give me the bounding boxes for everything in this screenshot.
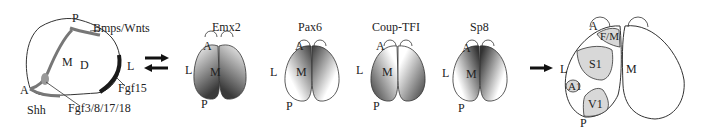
map-label-medial: M <box>626 63 637 75</box>
brain-title-emx2: Emx2 <box>212 21 241 33</box>
label-bmps-wnts: Bmps/Wnts <box>93 22 150 34</box>
brain-sp8-label-a: A <box>462 42 471 54</box>
brain-title-coup-tfi: Coup-TFI <box>372 21 420 33</box>
map-label-a1: A1 <box>568 81 581 92</box>
brain-emx2-label-a: A <box>203 40 212 52</box>
label-lateral: L <box>127 60 134 72</box>
map-label-v1: V1 <box>588 98 603 110</box>
brain-emx2-label-m: M <box>210 66 221 78</box>
map-label-anterior: A <box>589 20 598 32</box>
brain-emx2-label-p: P <box>201 98 208 110</box>
map-label-lateral: L <box>560 63 567 75</box>
bidirectional-arrows-icon <box>144 54 169 72</box>
brain-coup-label-l: L <box>356 64 363 76</box>
brain-sp8-label-l: L <box>442 67 449 79</box>
brain-pax6-label-l: L <box>270 66 277 78</box>
brain-title-pax6: Pax6 <box>298 21 322 33</box>
shh-band <box>30 89 60 96</box>
brain-coup-label-a: A <box>376 40 385 52</box>
brain-pax6-label-m: M <box>296 66 307 78</box>
brain-title-sp8: Sp8 <box>470 21 489 33</box>
map-label-s1: S1 <box>589 58 602 70</box>
label-dorsal: D <box>80 59 89 71</box>
brain-pax6-label-a: A <box>295 40 304 52</box>
map-label-posterior: P <box>580 117 587 129</box>
brain-emx2-label-l: L <box>185 64 192 76</box>
right-arrow-icon <box>530 64 553 72</box>
brain-pax6-label-p: P <box>286 100 293 112</box>
brain-pax6 <box>285 40 339 101</box>
brain-coup-label-p: P <box>373 100 380 112</box>
brain-sp8-label-p: P <box>458 102 465 114</box>
panel-c-area-map <box>565 17 684 119</box>
label-posterior: P <box>72 12 79 24</box>
label-medial: M <box>62 56 73 68</box>
label-fgf3-8-17-18: Fgf3/8/17/18 <box>68 102 131 114</box>
label-fgf15: Fgf15 <box>118 82 147 94</box>
label-shh: Shh <box>27 104 46 116</box>
brain-sp8-label-m: M <box>466 68 477 80</box>
fgf15-band <box>100 55 120 92</box>
label-anterior: A <box>20 84 29 96</box>
map-label-fm: F/M <box>600 31 619 42</box>
brain-coup-label-m: M <box>382 66 393 78</box>
